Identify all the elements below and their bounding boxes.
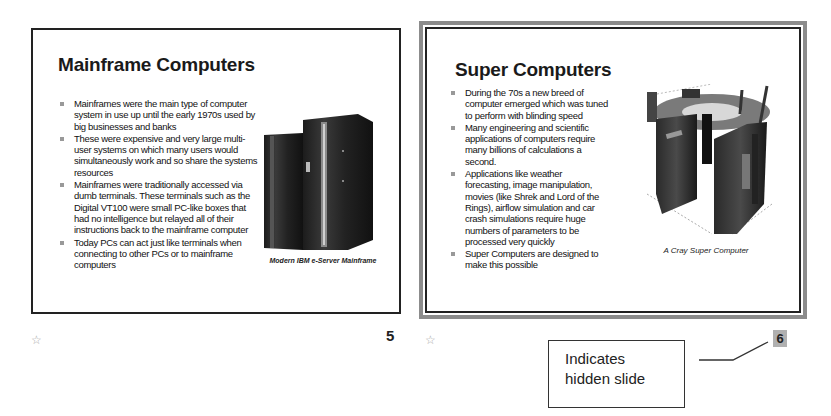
bullet-text: Mainframes were traditionally accessed v… (74, 179, 250, 235)
callout-line-2: hidden slide (565, 369, 684, 389)
bullet-item: These were expensive and very large mult… (58, 133, 258, 178)
bullet-icon (60, 183, 64, 187)
bullet-item: Super Computers are designed to make thi… (449, 248, 609, 271)
supercomputer-image: A Cray Super Computer (642, 84, 782, 274)
hidden-slide-number-badge: 6 (773, 330, 787, 347)
star-icon[interactable]: ☆ (31, 334, 42, 346)
bullet-icon (60, 137, 64, 141)
bullet-icon (451, 252, 455, 256)
bullet-item: Mainframes were the main type of compute… (58, 98, 258, 132)
bullet-text: These were expensive and very large mult… (74, 133, 257, 178)
bullet-icon (60, 102, 64, 106)
bullet-text: Many engineering and scientific applicat… (465, 122, 595, 167)
slide-title: Super Computers (455, 59, 611, 81)
bullet-icon (451, 172, 455, 176)
slide-thumbnail-6[interactable]: Super Computers During the 70s a new bre… (425, 27, 801, 313)
bullet-item: Today PCs can act just like terminals wh… (58, 237, 258, 271)
supercomputer-icon (642, 84, 782, 244)
slide-number: 6 (776, 332, 783, 345)
slide-thumbnail-5[interactable]: Mainframe Computers Mainframes were the … (31, 28, 401, 314)
bullet-item: Many engineering and scientific applicat… (449, 122, 609, 167)
mainframe-image: Modern IBM e-Server Mainframe (258, 100, 388, 295)
star-icon[interactable]: ☆ (425, 334, 436, 346)
bullet-item: During the 70s a new breed of computer e… (449, 87, 609, 121)
selected-slide-frame[interactable]: Super Computers During the 70s a new bre… (419, 21, 807, 319)
bullet-list: During the 70s a new breed of computer e… (449, 87, 609, 272)
bullet-text: Super Computers are designed to make thi… (465, 248, 598, 270)
figure-caption: A Cray Super Computer (636, 246, 776, 255)
callout-line-1: Indicates (565, 349, 684, 369)
bullet-text: Applications like weather forecasting, i… (465, 168, 599, 247)
bullet-icon (451, 126, 455, 130)
slide-title: Mainframe Computers (58, 54, 255, 76)
bullet-item: Mainframes were traditionally accessed v… (58, 179, 258, 235)
bullet-list: Mainframes were the main type of compute… (58, 98, 258, 271)
slide-number: 5 (386, 327, 394, 344)
hidden-slide-callout: Indicates hidden slide (548, 340, 685, 408)
bullet-text: Today PCs can act just like terminals wh… (74, 237, 241, 271)
bullet-text: Mainframes were the main type of compute… (74, 98, 255, 132)
bullet-icon (60, 241, 64, 245)
figure-caption: Modern IBM e-Server Mainframe (258, 257, 388, 264)
bullet-item: Applications like weather forecasting, i… (449, 168, 609, 247)
bullet-text: During the 70s a new breed of computer e… (465, 87, 608, 121)
bullet-icon (451, 91, 455, 95)
mainframe-icon (258, 100, 388, 255)
